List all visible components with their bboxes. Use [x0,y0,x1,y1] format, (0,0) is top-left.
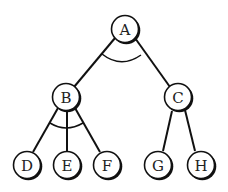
edge-c-h [185,110,195,151]
and-arc-a [102,54,141,62]
edge-a-c [135,38,170,87]
tree-diagram: ABCDEFGH [0,0,228,192]
edge-c-g [163,111,172,151]
node-h: H [188,152,217,181]
node-label: A [119,21,131,39]
node-e: E [54,152,83,181]
node-label: E [62,157,73,175]
edge-a-b [74,38,115,87]
node-a: A [112,16,141,45]
node-label: H [194,157,207,175]
node-label: D [21,157,33,175]
edge-b-d [33,108,58,152]
node-label: F [102,157,112,175]
node-label: C [172,89,183,107]
node-label: G [152,157,164,175]
node-b: B [53,84,82,113]
nodes: ABCDEFGH [14,16,217,181]
node-g: G [145,152,174,181]
node-label: B [60,89,71,107]
node-c: C [165,84,194,113]
edge-b-f [75,108,100,152]
node-f: F [94,152,123,181]
node-d: D [14,152,43,181]
